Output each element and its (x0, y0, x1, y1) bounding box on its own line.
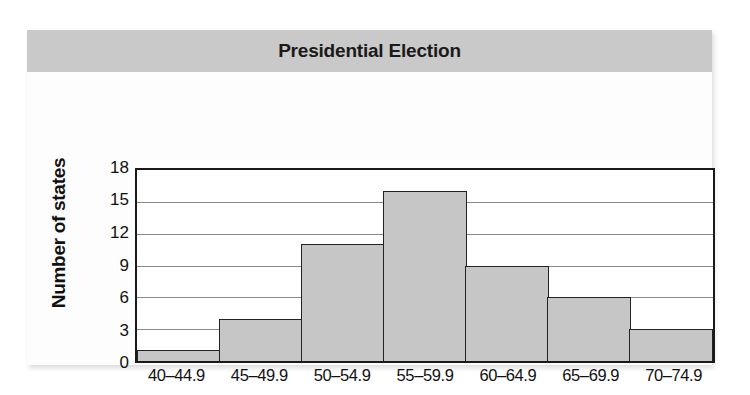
histogram-bar (383, 191, 467, 361)
x-axis-tick-labels: 40–44.945–49.950–54.955–59.960–64.965–69… (135, 366, 715, 385)
histogram-bar (301, 244, 385, 361)
histogram-bar (547, 297, 631, 361)
histogram-bar (629, 329, 713, 361)
x-tick-label: 60–64.9 (466, 366, 549, 385)
histogram-bar (137, 350, 221, 361)
y-tick-label: 12 (93, 223, 129, 243)
y-tick-label: 18 (93, 158, 129, 178)
chart-card: Presidential Election Number of states 0… (27, 30, 712, 365)
y-tick-label: 3 (93, 321, 129, 341)
chart-body: Number of states 0369121518 40–44.945–49… (27, 72, 712, 365)
y-axis-title: Number of states (48, 148, 70, 318)
x-tick-label: 45–49.9 (218, 366, 301, 385)
x-tick-label: 40–44.9 (135, 366, 218, 385)
histogram-figure: Presidential Election Number of states 0… (0, 0, 750, 395)
chart-title: Presidential Election (278, 40, 461, 62)
bars-container (137, 170, 713, 361)
x-tick-label: 65–69.9 (549, 366, 632, 385)
y-tick-label: 0 (93, 353, 129, 373)
plot-area (135, 168, 715, 363)
x-tick-label: 70–74.9 (632, 366, 715, 385)
x-tick-label: 50–54.9 (301, 366, 384, 385)
chart-title-band: Presidential Election (27, 30, 712, 72)
histogram-bar (465, 266, 549, 362)
histogram-bar (219, 319, 303, 361)
y-tick-label: 9 (93, 256, 129, 276)
y-tick-label: 6 (93, 288, 129, 308)
y-axis-tick-labels: 0369121518 (89, 168, 129, 363)
x-tick-label: 55–59.9 (384, 366, 467, 385)
y-tick-label: 15 (93, 190, 129, 210)
